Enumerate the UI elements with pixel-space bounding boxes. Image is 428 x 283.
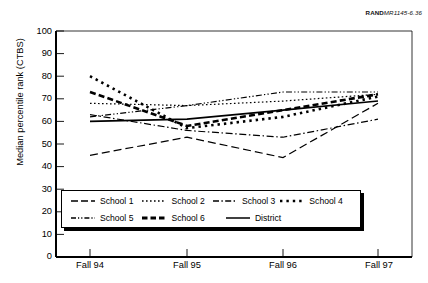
legend-label-school-2: School 2 [171, 196, 204, 206]
legend-item-school-4: School 4 [279, 196, 342, 206]
legend-label-school-4: School 4 [309, 196, 342, 206]
chart-figure: RANDMR1145-6.36 Median percentile rank (… [0, 0, 428, 283]
legend-item-school-3: School 3 [212, 196, 275, 206]
legend-item-school-1: School 1 [70, 196, 133, 206]
legend-label-school-1: School 1 [100, 196, 133, 206]
x-axis-ticks [90, 249, 378, 257]
legend-label-district: District [255, 213, 281, 223]
legend-item-district: District [225, 213, 281, 223]
legend-item-school-5: School 5 [70, 213, 133, 223]
legend-key-school-4-icon [279, 196, 305, 206]
legend-key-school-6-icon [141, 213, 167, 223]
legend-key-district-icon [225, 213, 251, 223]
legend-label-school-6: School 6 [171, 213, 204, 223]
chart-legend: School 1 School 2 School 3 School 4 [61, 190, 361, 228]
series-line-school-2 [90, 94, 378, 105]
data-series-layer [90, 76, 378, 157]
legend-key-school-5-icon [70, 213, 96, 223]
plot-area [0, 0, 428, 283]
legend-key-school-3-icon [212, 196, 238, 206]
legend-key-school-2-icon [141, 196, 167, 206]
legend-label-school-5: School 5 [100, 213, 133, 223]
legend-label-school-3: School 3 [242, 196, 275, 206]
legend-key-school-1-icon [70, 196, 96, 206]
series-line-school-1 [90, 103, 378, 157]
legend-item-school-2: School 2 [141, 196, 204, 206]
legend-item-school-6: School 6 [141, 213, 204, 223]
